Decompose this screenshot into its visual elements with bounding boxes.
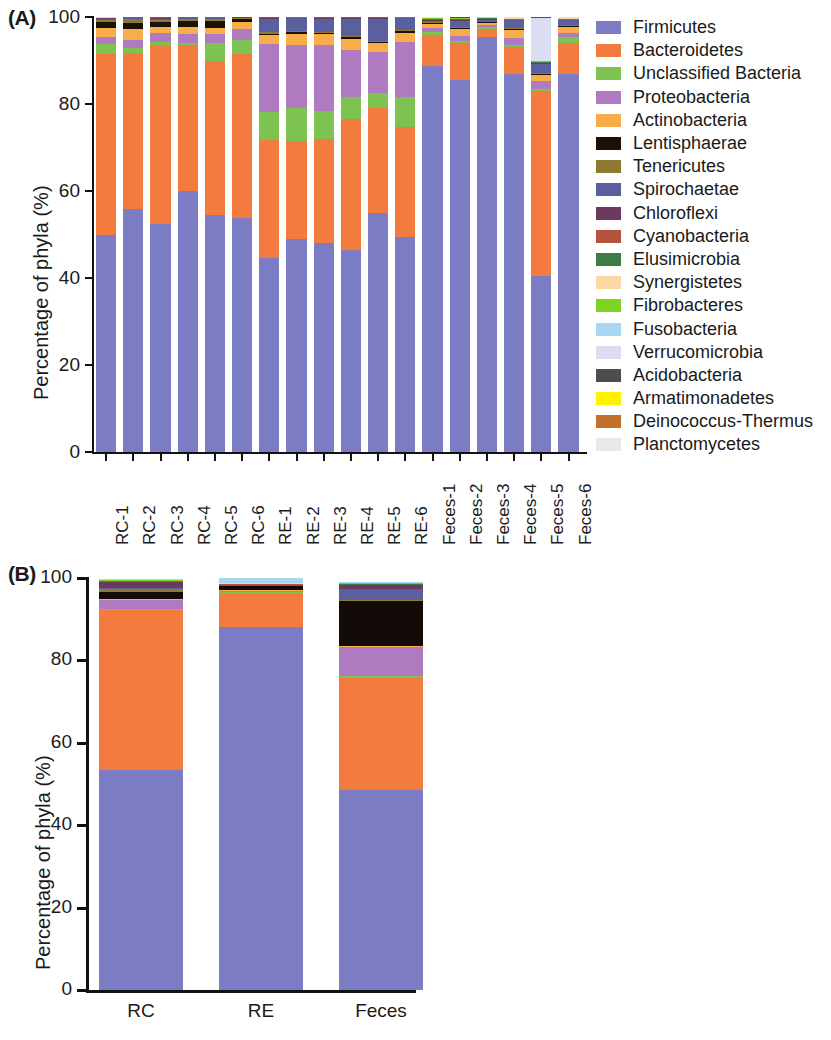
bar-segment	[558, 43, 578, 73]
bar-segment	[558, 25, 578, 26]
bar-rc-5[interactable]	[205, 17, 225, 452]
panel-a-legend-item[interactable]: Tenericutes	[596, 155, 813, 178]
legend-label: Fibrobacteres	[633, 295, 743, 316]
panel-a-y-tick-label: 60	[38, 180, 80, 202]
bar-re-1[interactable]	[259, 17, 279, 452]
legend-label: Cyanobacteria	[633, 226, 749, 247]
panel-a-legend-item[interactable]: Elusimicrobia	[596, 248, 813, 271]
panel-a-legend-item[interactable]: Unclassified Bacteria	[596, 62, 813, 85]
bar-segment	[123, 19, 143, 22]
bar-rc-3[interactable]	[150, 17, 170, 452]
panel-a-legend-item[interactable]: Bacteroidetes	[596, 39, 813, 62]
panel-a-x-tick-label: Feces-2	[467, 484, 487, 545]
bar-re-5[interactable]	[368, 17, 388, 452]
bar-segment	[314, 19, 334, 32]
bar-segment	[531, 81, 551, 89]
legend-label: Actinobacteria	[633, 110, 747, 131]
bar-segment	[339, 582, 423, 583]
bar-segment	[99, 600, 183, 608]
panel-a-legend-item[interactable]: Proteobacteria	[596, 86, 813, 109]
bar-segment	[123, 40, 143, 48]
bar-rc-2[interactable]	[123, 17, 143, 452]
legend-swatch-icon	[596, 21, 621, 34]
bar-segment	[395, 17, 415, 18]
bar-segment	[286, 45, 306, 108]
bar-rc-1[interactable]	[96, 17, 116, 452]
panel-a-legend-item[interactable]: Armatimonadetes	[596, 387, 813, 410]
bar-segment	[178, 27, 198, 34]
bar-feces-1[interactable]	[422, 17, 442, 452]
panel-a-legend-item[interactable]: Firmicutes	[596, 16, 813, 39]
bar-segment	[368, 93, 388, 108]
bar-re-6[interactable]	[395, 17, 415, 452]
panel-a-x-tick	[323, 454, 325, 461]
bar-segment	[259, 35, 279, 45]
bar-segment	[219, 578, 303, 583]
bar-segment	[341, 50, 361, 98]
bar-segment	[422, 32, 442, 35]
panel-a-legend-item[interactable]: Actinobacteria	[596, 109, 813, 132]
legend-swatch-icon	[596, 438, 621, 451]
panel-a-plot-area	[94, 17, 586, 452]
bar-feces-4[interactable]	[504, 17, 524, 452]
panel-b-x-tick-label: RC	[81, 1000, 201, 1022]
bar-segment	[232, 18, 252, 19]
bar-segment	[450, 41, 470, 43]
bar-rc-6[interactable]	[232, 17, 252, 452]
bar-feces-2[interactable]	[450, 17, 470, 452]
bar-segment	[96, 28, 116, 37]
bar-segment	[314, 139, 334, 243]
panel-a-legend-item[interactable]: Fibrobacteres	[596, 294, 813, 317]
panel-a-legend-item[interactable]: Spirochaetae	[596, 178, 813, 201]
bar-segment	[150, 33, 170, 42]
panel-a-legend-item[interactable]: Chloroflexi	[596, 202, 813, 225]
bar-segment	[477, 23, 497, 26]
bar-segment	[422, 22, 442, 23]
bar-re-4[interactable]	[341, 17, 361, 452]
bar-segment	[339, 600, 423, 601]
panel-a-legend-item[interactable]: Acidobacteria	[596, 364, 813, 387]
bar-segment	[504, 28, 524, 29]
bar-rc-4[interactable]	[178, 17, 198, 452]
bar-segment	[99, 770, 183, 990]
bar-feces[interactable]	[339, 578, 423, 990]
bar-segment	[395, 237, 415, 452]
legend-swatch-icon	[596, 183, 621, 196]
bar-feces-5[interactable]	[531, 17, 551, 452]
bar-segment	[504, 74, 524, 452]
bar-segment	[477, 25, 497, 27]
panel-a-x-tick	[486, 454, 488, 461]
panel-a-legend-item[interactable]: Synergistetes	[596, 271, 813, 294]
bar-segment	[450, 27, 470, 28]
bar-rc[interactable]	[99, 578, 183, 990]
bar-segment	[450, 43, 470, 80]
bar-segment	[504, 45, 524, 48]
bar-re-2[interactable]	[286, 17, 306, 452]
panel-a-x-tick-label: Feces-3	[494, 484, 514, 545]
panel-a-x-tick-label: Feces-6	[576, 484, 596, 545]
bar-feces-6[interactable]	[558, 17, 578, 452]
bar-segment	[178, 43, 198, 46]
bar-re-3[interactable]	[314, 17, 334, 452]
panel-a-legend-item[interactable]: Verrucomicrobia	[596, 341, 813, 364]
panel-a-legend-item[interactable]: Planctomycetes	[596, 433, 813, 456]
panel-a-legend-item[interactable]: Fusobacteria	[596, 317, 813, 340]
bar-segment	[558, 27, 578, 33]
bar-feces-3[interactable]	[477, 17, 497, 452]
bar-segment	[558, 20, 578, 25]
legend-label: Planctomycetes	[633, 434, 760, 455]
bar-segment	[286, 31, 306, 32]
bar-segment	[286, 34, 306, 46]
bar-segment	[178, 18, 198, 19]
bar-segment	[219, 627, 303, 990]
bar-segment	[150, 224, 170, 452]
panel-a-legend-item[interactable]: Deinococcus-Thermus	[596, 410, 813, 433]
bar-segment	[232, 40, 252, 54]
panel-a-x-tick-label: RC-5	[222, 505, 242, 545]
bar-segment	[531, 89, 551, 91]
panel-a-legend-item[interactable]: Lentisphaerae	[596, 132, 813, 155]
panel-a-legend-item[interactable]: Cyanobacteria	[596, 225, 813, 248]
bar-re[interactable]	[219, 578, 303, 990]
legend-label: Synergistetes	[633, 272, 742, 293]
bar-segment	[531, 60, 551, 61]
